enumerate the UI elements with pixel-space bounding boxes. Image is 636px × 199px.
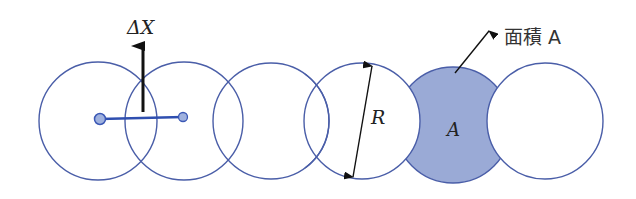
left-atom-dot xyxy=(95,114,106,125)
right-atom-dot xyxy=(179,113,188,122)
bond-line xyxy=(100,117,183,119)
area-callout-label: 面積 A xyxy=(504,26,561,48)
area-inner-label: A xyxy=(445,119,460,140)
radius-label: R xyxy=(370,106,385,128)
delta-x-label: ΔX xyxy=(126,16,156,38)
area-callout-arrow-icon xyxy=(455,31,489,73)
circle-6 xyxy=(487,63,603,179)
overlapping-circles-diagram: ΔX R A 面積 A xyxy=(0,0,636,199)
